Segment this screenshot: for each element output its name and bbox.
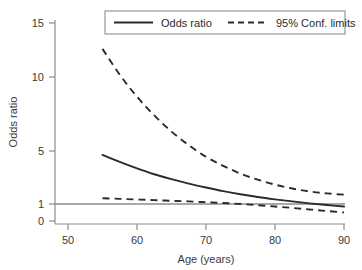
curve-lower-confidence-limit bbox=[103, 198, 345, 212]
x-tick-label-90: 90 bbox=[338, 234, 350, 246]
y-axis-ticks bbox=[49, 23, 55, 221]
legend: Odds ratio 95% Conf. limits bbox=[105, 11, 356, 34]
axis-lines bbox=[55, 20, 345, 224]
y-tick-label-1: 1 bbox=[38, 198, 44, 210]
x-axis-ticks bbox=[68, 224, 344, 230]
odds-ratio-chart: 15 10 5 1 0 50 60 70 80 90 Age (years) O… bbox=[0, 0, 362, 270]
legend-label-conf-limits: 95% Conf. limits bbox=[276, 17, 356, 29]
x-axis-tick-labels: 50 60 70 80 90 bbox=[62, 234, 350, 246]
x-tick-label-80: 80 bbox=[269, 234, 281, 246]
x-tick-label-70: 70 bbox=[200, 234, 212, 246]
y-tick-label-5: 5 bbox=[38, 145, 44, 157]
x-tick-label-50: 50 bbox=[62, 234, 74, 246]
y-tick-label-0: 0 bbox=[38, 215, 44, 227]
y-axis-tick-labels: 15 10 5 1 0 bbox=[32, 17, 44, 227]
x-axis-title: Age (years) bbox=[178, 253, 235, 265]
y-tick-label-10: 10 bbox=[32, 71, 44, 83]
legend-label-odds-ratio: Odds ratio bbox=[161, 17, 212, 29]
curve-upper-confidence-limit bbox=[103, 49, 345, 195]
x-tick-label-60: 60 bbox=[131, 234, 143, 246]
chart-canvas: 15 10 5 1 0 50 60 70 80 90 Age (years) O… bbox=[0, 0, 362, 270]
y-axis-title: Odds ratio bbox=[7, 97, 19, 148]
y-tick-label-15: 15 bbox=[32, 17, 44, 29]
